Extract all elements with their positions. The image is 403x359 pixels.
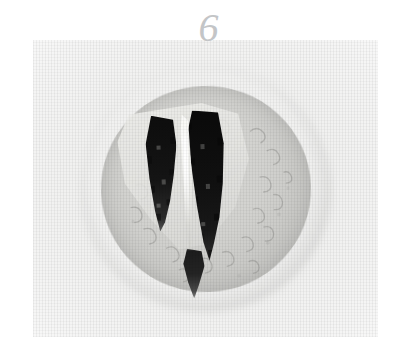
- page-canvas: 6: [0, 0, 403, 359]
- caption-bleed-text: [33, 344, 193, 352]
- tooth-cross-section: [79, 65, 331, 311]
- specimen-photograph: [33, 40, 378, 337]
- figure-number-label: 6: [0, 8, 403, 48]
